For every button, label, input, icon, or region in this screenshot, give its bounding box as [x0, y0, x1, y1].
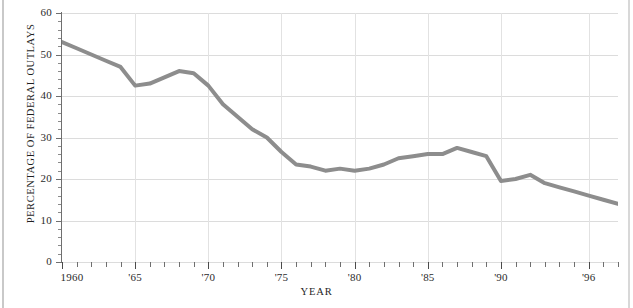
- x-tick-mark-major: [135, 262, 136, 269]
- x-tick-mark-minor: [179, 262, 180, 267]
- x-tick-mark-minor: [194, 262, 195, 267]
- x-tick-mark-major: [589, 262, 590, 269]
- x-tick-label: '65: [128, 271, 142, 283]
- x-tick-mark-minor: [413, 262, 414, 267]
- x-tick-mark-minor: [296, 262, 297, 267]
- y-tick-label: 40: [18, 89, 52, 101]
- x-tick-mark-minor: [574, 262, 575, 267]
- y-tick-label: 60: [18, 6, 52, 18]
- x-tick-mark-minor: [252, 262, 253, 267]
- x-tick-mark-minor: [399, 262, 400, 267]
- x-tick-label: '70: [202, 271, 216, 283]
- x-tick-mark-major: [428, 262, 429, 269]
- x-tick-mark-minor: [325, 262, 326, 267]
- x-tick-mark-minor: [442, 262, 443, 267]
- x-tick-mark-minor: [91, 262, 92, 267]
- plot-area: [62, 13, 618, 262]
- x-tick-mark-major: [501, 262, 502, 269]
- chart-figure: PERCENTAGE OF FEDERAL OUTLAYS 0102030405…: [0, 0, 633, 308]
- x-tick-mark-minor: [106, 262, 107, 267]
- x-tick-mark-major: [62, 262, 63, 269]
- y-tick-label: 30: [18, 131, 52, 143]
- x-tick-mark-minor: [486, 262, 487, 267]
- x-tick-mark-minor: [457, 262, 458, 267]
- page-right-rule: [628, 0, 630, 308]
- x-tick-mark-minor: [369, 262, 370, 267]
- x-tick-label: '80: [348, 271, 362, 283]
- x-tick-mark-major: [208, 262, 209, 269]
- x-tick-mark-minor: [516, 262, 517, 267]
- x-tick-mark-minor: [150, 262, 151, 267]
- x-tick-mark-minor: [384, 262, 385, 267]
- x-tick-mark-minor: [164, 262, 165, 267]
- x-tick-mark-minor: [223, 262, 224, 267]
- y-tick-label: 0: [18, 255, 52, 267]
- x-axis-label: YEAR: [0, 286, 633, 297]
- x-tick-label: '90: [494, 271, 508, 283]
- y-tick-label: 10: [18, 214, 52, 226]
- x-tick-mark-minor: [340, 262, 341, 267]
- series-line-outlays: [62, 13, 618, 262]
- x-tick-mark-minor: [618, 262, 619, 267]
- x-tick-label: '85: [421, 271, 435, 283]
- x-tick-label: '75: [275, 271, 289, 283]
- x-tick-mark-minor: [121, 262, 122, 267]
- x-tick-mark-minor: [530, 262, 531, 267]
- y-axis-label: PERCENTAGE OF FEDERAL OUTLAYS: [25, 14, 36, 234]
- x-tick-mark-minor: [267, 262, 268, 267]
- x-tick-mark-major: [355, 262, 356, 269]
- y-tick-label: 20: [18, 172, 52, 184]
- x-tick-mark-minor: [472, 262, 473, 267]
- x-tick-mark-minor: [311, 262, 312, 267]
- x-tick-mark-minor: [559, 262, 560, 267]
- x-tick-mark-major: [281, 262, 282, 269]
- y-tick-label: 50: [18, 48, 52, 60]
- x-tick-mark-minor: [545, 262, 546, 267]
- x-tick-mark-minor: [238, 262, 239, 267]
- x-tick-label: 1960: [61, 271, 84, 283]
- x-tick-mark-minor: [77, 262, 78, 267]
- x-tick-mark-minor: [603, 262, 604, 267]
- x-tick-label: '96: [582, 271, 596, 283]
